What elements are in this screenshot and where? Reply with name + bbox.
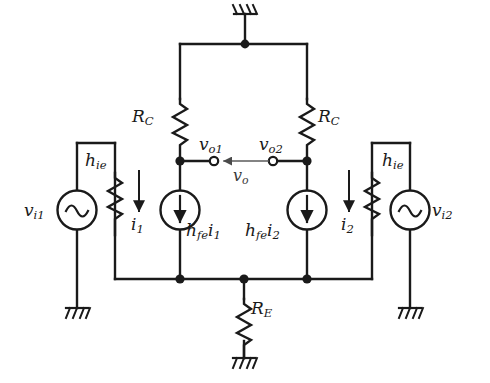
label-rc-right: RC bbox=[318, 108, 340, 125]
label-rc-left: RC bbox=[132, 108, 154, 125]
rc-right-resistor bbox=[300, 99, 314, 161]
circuit-diagram: RC RC RE hie hie vi1 vi2 vo1 vo2 vo i1 i… bbox=[0, 0, 490, 383]
label-hie-right: hie bbox=[382, 152, 403, 169]
ground-re-symbol bbox=[233, 358, 257, 368]
label-hie-left: hie bbox=[85, 152, 106, 169]
rc-left-resistor bbox=[173, 99, 187, 161]
circuit-schematic-svg bbox=[0, 0, 490, 383]
label-vo1: vo1 bbox=[199, 136, 223, 153]
ground-vi1-symbol bbox=[66, 308, 90, 318]
label-vo: vo bbox=[233, 168, 249, 184]
label-vo2: vo2 bbox=[259, 136, 283, 153]
junction-dot-emitter-left bbox=[175, 274, 184, 283]
label-hfe-i1: hfei1 bbox=[186, 222, 221, 239]
junction-dot-vo2-node bbox=[302, 156, 311, 165]
top-supply-rail bbox=[180, 44, 307, 99]
ground-top-symbol bbox=[233, 5, 257, 44]
label-hfe-i2: hfei2 bbox=[245, 222, 280, 239]
label-re: RE bbox=[251, 300, 272, 317]
junction-dot-top-rail bbox=[241, 40, 250, 49]
terminal-vo1-circle bbox=[210, 157, 218, 165]
label-vi2: vi2 bbox=[432, 202, 453, 219]
re-resistor bbox=[237, 299, 251, 358]
label-vi1: vi1 bbox=[24, 202, 45, 219]
terminal-vo2-circle bbox=[269, 157, 277, 165]
junction-dot-emitter-right bbox=[302, 274, 311, 283]
ground-vi2-symbol bbox=[399, 308, 423, 318]
label-i1: i1 bbox=[131, 216, 144, 233]
label-i2: i2 bbox=[341, 216, 354, 233]
junction-dot-re-node bbox=[239, 274, 248, 283]
junction-dot-vo1-node bbox=[175, 156, 184, 165]
